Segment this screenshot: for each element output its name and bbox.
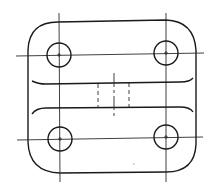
hole-center-marks [57, 51, 168, 141]
centerline-horizontal-bottom [17, 137, 203, 140]
plate-outline [28, 20, 196, 173]
technical-drawing [0, 0, 213, 189]
centerline-horizontal-top [16, 53, 204, 56]
slot-top-edge [32, 78, 193, 84]
centerline-vertical-left [59, 13, 60, 182]
slot-bottom-edge [32, 107, 193, 114]
stray-mark [133, 163, 134, 164]
